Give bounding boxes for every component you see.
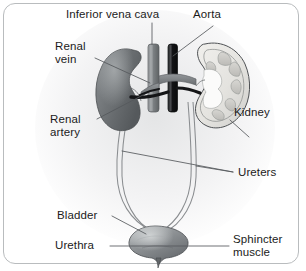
- bladder-graphic: [129, 226, 188, 268]
- urinary-system-illustration: [0, 0, 306, 271]
- label-urethra: Urethra: [55, 239, 94, 252]
- label-kidney: Kidney: [234, 106, 270, 119]
- label-bladder: Bladder: [57, 209, 97, 222]
- inferior-vena-cava-graphic: [148, 44, 159, 112]
- label-renal-artery-line1: Renal: [50, 113, 81, 126]
- figure-root: Inferior vena cava Aorta Renal vein Rena…: [0, 0, 306, 271]
- label-sphincter-muscle-line1: Sphincter: [233, 233, 282, 246]
- urethra-graphic: [156, 258, 161, 268]
- label-ureters: Ureters: [238, 166, 276, 179]
- label-renal-artery-line2: artery: [50, 126, 80, 139]
- label-sphincter-muscle-line2: muscle: [233, 246, 270, 259]
- label-renal-vein-line1: Renal: [55, 40, 86, 53]
- label-aorta: Aorta: [193, 8, 221, 21]
- label-renal-vein-line2: vein: [55, 53, 77, 66]
- label-inferior-vena-cava: Inferior vena cava: [66, 8, 159, 21]
